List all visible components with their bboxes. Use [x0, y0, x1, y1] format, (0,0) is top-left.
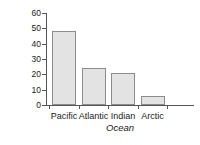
x-axis-tick [79, 105, 80, 109]
y-axis-tick-label: 50 [19, 24, 41, 33]
y-axis-tick [42, 105, 47, 106]
x-axis-tick-label: Pacific [49, 111, 79, 122]
bar-atlantic [82, 68, 106, 105]
bar-indian [111, 73, 135, 105]
bar-chart: Percentage 0102030405060 PacificAtlantic… [0, 0, 200, 145]
y-axis-tick-label: 60 [19, 9, 41, 18]
y-axis-tick-label: 0 [19, 101, 41, 110]
y-axis-tick [42, 44, 47, 45]
x-axis-tick-label: Arctic [138, 111, 168, 122]
y-axis-tick [42, 74, 47, 75]
y-axis-tick [42, 13, 47, 14]
y-axis-tick [42, 59, 47, 60]
x-axis-line [46, 105, 194, 106]
x-axis-tick [167, 105, 168, 109]
x-axis-tick-label: Indian [108, 111, 138, 122]
plot-area: 0102030405060 PacificAtlanticIndianArcti… [46, 10, 194, 106]
y-axis-tick [42, 28, 47, 29]
y-axis-tick [42, 90, 47, 91]
x-axis-title: Ocean [46, 122, 194, 133]
y-axis-tick-label: 40 [19, 40, 41, 49]
y-axis-tick-label: 20 [19, 70, 41, 79]
y-axis-tick-label: 30 [19, 55, 41, 64]
bar-arctic [141, 96, 165, 105]
bar-pacific [52, 31, 76, 105]
x-axis-tick [108, 105, 109, 109]
x-axis-tick [49, 105, 50, 109]
y-axis-tick-label: 10 [19, 86, 41, 95]
x-axis-tick-label: Atlantic [79, 111, 109, 122]
x-axis-tick [138, 105, 139, 109]
